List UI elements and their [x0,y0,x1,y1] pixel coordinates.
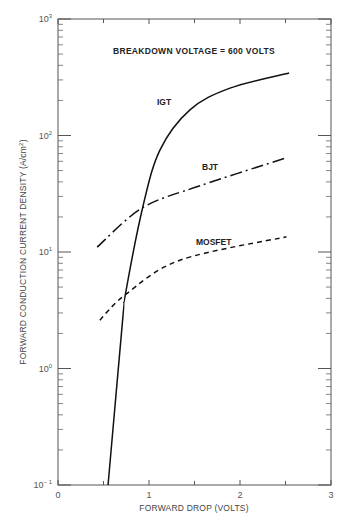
label-mosfet: MOSFET [196,237,232,247]
y-tick-label: 101 [39,246,53,257]
y-tick-label: 103 [39,13,53,24]
plot-frame [58,19,331,485]
y-tick-label: 10− 1 [33,479,52,490]
y-tick-label: 102 [39,130,53,141]
x-tick-label: 2 [237,490,242,500]
curve-bjt [97,158,285,247]
chart: 10310210110010− 10123 BREAKDOWN VOLTAGE … [0,0,350,524]
x-tick-label: 0 [55,490,60,500]
chart-title: BREAKDOWN VOLTAGE = 600 VOLTS [113,46,275,56]
y-axis-label: FORWARD CONDUCTION CURRENT DENSITY (A/cm… [18,139,28,364]
label-igt: IGT [157,97,172,107]
y-tick-label: 100 [39,363,53,374]
x-axis-label: FORWARD DROP (VOLTS) [139,503,248,513]
x-tick-label: 3 [328,490,333,500]
plot-curves [97,73,289,485]
curve-igt [108,73,289,485]
plot-axes: 10310210110010− 10123 [33,13,333,500]
x-tick-label: 1 [146,490,151,500]
label-bjt: BJT [202,162,219,172]
